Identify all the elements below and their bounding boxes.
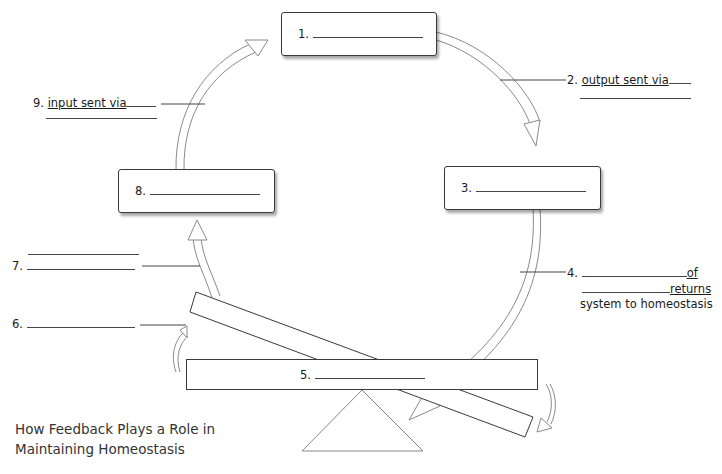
label-9-blank-a[interactable] [126, 96, 156, 107]
label-7: 7. [12, 259, 135, 273]
label-7-blank-a[interactable] [27, 259, 135, 270]
box1-blank[interactable] [313, 27, 423, 38]
box3-blank[interactable] [476, 181, 586, 192]
arrow-8-to-1-icon [176, 40, 268, 170]
box5-blank[interactable] [315, 368, 425, 379]
box-3: 3. [444, 166, 601, 210]
box1-number: 1. [298, 27, 309, 41]
label-4-blank-a[interactable] [582, 266, 687, 277]
label-4-line3: system to homeostasis [580, 297, 713, 311]
label-6-blank-a[interactable] [27, 317, 135, 328]
label-6: 6. [12, 317, 135, 331]
box5-number: 5. [300, 368, 311, 382]
box3-number: 3. [461, 181, 472, 195]
box8-blank[interactable] [150, 184, 260, 195]
label-4-line2: returns [582, 282, 711, 296]
label-4: 4. of [567, 266, 698, 280]
box8-number: 8. [135, 184, 146, 198]
diagram-caption: How Feedback Plays a Role in Maintaining… [15, 419, 215, 459]
label-2: 2. output sent via [567, 73, 691, 87]
label-4-blank-b[interactable] [582, 282, 670, 293]
balance-plank: 5. [186, 359, 538, 390]
box-1: 1. [281, 12, 437, 56]
label-2-blank-a[interactable] [669, 73, 691, 84]
arrow-tilt-down-icon [537, 384, 555, 432]
label-2-text: output sent via [582, 73, 669, 87]
feedback-cycle-diagram [0, 0, 722, 474]
fulcrum-triangle [302, 390, 423, 451]
label-7-blank-b[interactable] [28, 244, 139, 255]
label-2-blank-b[interactable] [580, 88, 691, 99]
arrow-7-to-8-icon [188, 220, 220, 298]
box-8: 8. [118, 169, 275, 213]
label-9-blank-b[interactable] [46, 108, 157, 119]
arrow-1-to-3-icon [436, 32, 540, 146]
